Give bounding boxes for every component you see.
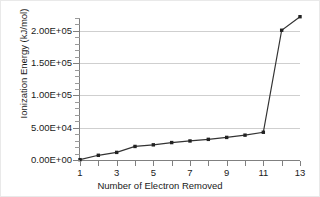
y-axis-minor-tick <box>75 141 80 142</box>
y-axis-tick <box>73 128 80 129</box>
x-axis-tick <box>190 161 191 166</box>
x-axis-tick <box>300 161 301 166</box>
series-polyline <box>80 17 300 160</box>
y-axis-minor-tick <box>75 24 80 25</box>
y-axis-minor-tick <box>75 147 80 148</box>
x-axis-tick <box>117 161 118 166</box>
x-axis-tick <box>208 161 209 166</box>
x-axis-tick <box>263 161 264 166</box>
y-axis-minor-tick <box>75 102 80 103</box>
y-axis-minor-tick <box>75 37 80 38</box>
data-point-marker <box>298 15 301 18</box>
data-point-marker <box>97 154 100 157</box>
y-axis-minor-tick <box>75 44 80 45</box>
y-axis-minor-tick <box>75 70 80 71</box>
y-axis-minor-tick <box>75 50 80 51</box>
y-axis-minor-tick <box>75 115 80 116</box>
x-axis-label: 5 <box>141 167 165 178</box>
y-axis-label: 1.50E+05 <box>0 58 72 68</box>
x-axis-label: 9 <box>215 167 239 178</box>
y-axis-tick <box>73 160 80 161</box>
y-axis-minor-tick <box>75 121 80 122</box>
x-axis-tick <box>153 161 154 166</box>
x-axis-label: 11 <box>251 167 275 178</box>
data-point-marker <box>225 136 228 139</box>
x-axis-label: 7 <box>178 167 202 178</box>
data-point-marker <box>207 138 210 141</box>
y-axis-label: 5.00E+04 <box>0 123 72 133</box>
x-axis-label: 13 <box>288 167 312 178</box>
x-axis-tick <box>98 161 99 166</box>
data-point-marker <box>152 143 155 146</box>
y-axis-minor-tick <box>75 134 80 135</box>
data-point-marker <box>262 131 265 134</box>
x-axis-tick <box>172 161 173 166</box>
data-point-marker <box>243 133 246 136</box>
y-axis-minor-tick <box>75 154 80 155</box>
data-point-marker <box>115 151 118 154</box>
data-point-marker <box>133 145 136 148</box>
x-axis-tick <box>227 161 228 166</box>
y-axis-tick <box>73 31 80 32</box>
y-axis-tick <box>73 95 80 96</box>
data-point-marker <box>188 139 191 142</box>
y-axis-label: 0.00E+00 <box>0 155 72 165</box>
y-axis-minor-tick <box>75 18 80 19</box>
x-axis-tick <box>245 161 246 166</box>
y-axis-minor-tick <box>75 76 80 77</box>
x-axis-tick <box>135 161 136 166</box>
y-axis-minor-tick <box>75 89 80 90</box>
data-point-marker <box>280 29 283 32</box>
x-axis-tick <box>80 161 81 166</box>
x-axis-tick <box>282 161 283 166</box>
y-axis-minor-tick <box>75 57 80 58</box>
x-axis-label: 3 <box>105 167 129 178</box>
y-axis-label: 2.00E+05 <box>0 26 72 36</box>
ionization-energy-chart: Ionization Energy (kJ/mol) Number of Ele… <box>0 0 320 197</box>
y-axis-minor-tick <box>75 83 80 84</box>
data-point-marker <box>170 141 173 144</box>
y-axis-label: 1.00E+05 <box>0 90 72 100</box>
x-axis-label: 1 <box>68 167 92 178</box>
y-axis-tick <box>73 63 80 64</box>
y-axis-minor-tick <box>75 108 80 109</box>
